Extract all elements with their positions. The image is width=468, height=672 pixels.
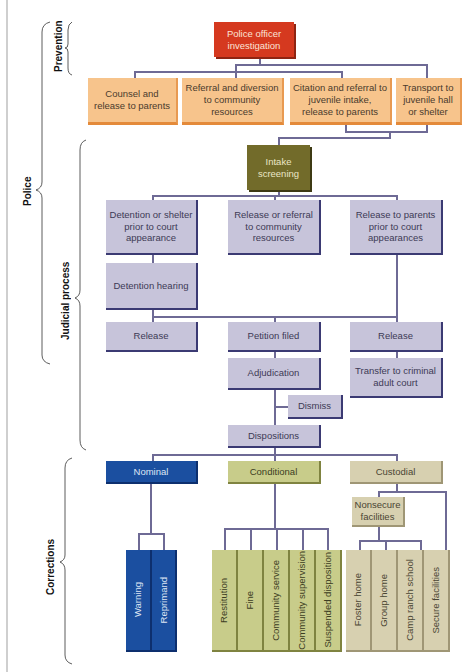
secure-facilities-box: Secure facilities [424, 550, 450, 652]
nominal-box: Nominal [106, 461, 198, 484]
release-referral-box: Release or referral to community resourc… [228, 200, 321, 255]
release-left-box: Release [106, 322, 198, 352]
referral-diversion-box: Referral and diversion to community reso… [182, 78, 284, 125]
custodial-box: Custodial [350, 461, 443, 484]
fine-box: Fine [238, 550, 264, 652]
community-service-label: Community service [270, 560, 282, 641]
label-judicial-process: Judicial process [60, 255, 71, 340]
dispositions-box: Dispositions [228, 425, 321, 448]
label-corrections: Corrections [45, 530, 56, 595]
community-supervision-box: Community supervision [290, 550, 316, 652]
conditional-box: Conditional [228, 461, 321, 484]
police-officer-investigation-box: Police officer investigation [214, 22, 294, 57]
fine-label: Fine [244, 591, 256, 609]
restitution-box: Restitution [212, 550, 238, 652]
adjudication-box: Adjudication [228, 358, 321, 390]
counsel-release-box: Counsel and release to parents [88, 78, 178, 125]
transfer-adult-court-box: Transfer to criminal adult court [350, 358, 443, 398]
reprimand-box: Reprimand [152, 550, 177, 652]
label-prevention: Prevention [53, 20, 64, 72]
warning-box: Warning [126, 550, 152, 652]
restitution-label: Restitution [218, 578, 230, 623]
community-supervision-label: Community supervision [296, 551, 308, 650]
warning-label: Warning [132, 582, 144, 617]
transport-juvenile-hall-box: Transport to juvenile hall or shelter [396, 78, 462, 125]
citation-referral-box: Citation and referral to juvenile intake… [290, 78, 392, 125]
group-home-label: Group home [378, 574, 390, 627]
community-service-box: Community service [264, 550, 290, 652]
suspended-disposition-label: Suspended disposition [322, 552, 334, 648]
petition-filed-box: Petition filed [228, 322, 321, 352]
suspended-disposition-box: Suspended disposition [316, 550, 342, 652]
release-to-parents-box: Release to parents prior to court appear… [350, 200, 443, 255]
group-home-box: Group home [372, 550, 398, 652]
camp-ranch-school-box: Camp ranch school [398, 550, 424, 652]
foster-home-label: Foster home [352, 573, 364, 626]
foster-home-box: Foster home [346, 550, 372, 652]
detention-shelter-box: Detention or shelter prior to court appe… [106, 200, 198, 255]
dismiss-box: Dismiss [288, 395, 343, 419]
label-police: Police [22, 172, 33, 206]
release-right-box: Release [350, 322, 443, 352]
nonsecure-facilities-box: Nonsecure facilities [352, 497, 405, 527]
camp-ranch-school-label: Camp ranch school [404, 559, 416, 641]
intake-screening-box: Intake screening [247, 145, 310, 190]
reprimand-label: Reprimand [158, 577, 170, 623]
detention-hearing-box: Detention hearing [106, 263, 198, 310]
secure-facilities-label: Secure facilities [430, 567, 442, 634]
